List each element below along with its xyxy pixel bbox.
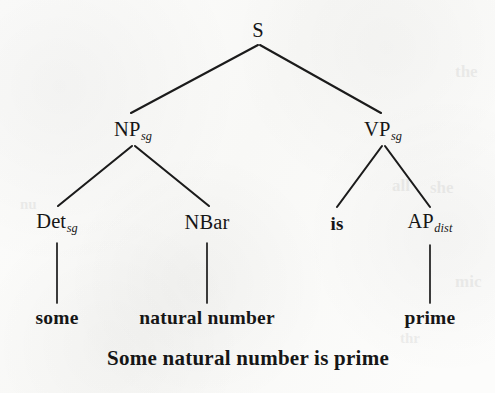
tree-edge-vp-ap xyxy=(385,146,430,207)
tree-edge-np-nbar xyxy=(135,146,209,206)
tree-node-nbar: NBar xyxy=(185,212,230,233)
tree-node-some: some xyxy=(35,308,78,328)
tree-edge-s-np xyxy=(131,45,258,113)
bleed-through-text: mic xyxy=(455,272,481,292)
tree-node-prime: prime xyxy=(405,308,456,328)
paper-texture xyxy=(0,0,495,393)
tree-node-label: Det xyxy=(36,210,66,232)
tree-node-label: VP xyxy=(364,118,390,140)
tree-node-ap: APdist xyxy=(407,211,452,234)
tree-node-subscript: sg xyxy=(141,128,152,142)
tree-node-label: some xyxy=(35,307,78,328)
tree-node-subscript: dist xyxy=(434,220,452,234)
tree-node-label: NP xyxy=(114,118,140,140)
tree-node-label: S xyxy=(252,19,264,41)
tree-edge-vp-is xyxy=(337,146,382,207)
tree-node-natnum: natural number xyxy=(139,308,275,328)
tree-node-label: NBar xyxy=(185,211,230,233)
tree-node-subscript: sg xyxy=(391,128,402,142)
tree-node-np: NPsg xyxy=(114,119,152,142)
figure-caption: Some natural number is prime xyxy=(107,346,389,371)
bleed-through-text: thr xyxy=(400,330,420,347)
bleed-through-text: the xyxy=(455,62,478,82)
figure-canvas: theallshemicthrnu SNPsgVPsgDetsgNBarisAP… xyxy=(0,0,495,393)
tree-node-s: S xyxy=(252,20,264,41)
tree-node-label: AP xyxy=(407,210,433,232)
tree-node-label: prime xyxy=(405,307,456,328)
tree-node-subscript: sg xyxy=(67,220,78,234)
tree-node-is: is xyxy=(331,214,344,233)
tree-edge-s-vp xyxy=(260,45,381,113)
tree-node-vp: VPsg xyxy=(364,119,402,142)
tree-edge-np-det xyxy=(58,146,132,206)
bleed-through-text: nu xyxy=(20,196,37,213)
tree-node-det: Detsg xyxy=(36,211,78,234)
tree-node-label: is xyxy=(331,213,344,234)
tree-edges xyxy=(0,0,495,393)
tree-node-label: natural number xyxy=(139,307,275,328)
bleed-through-text: she xyxy=(430,178,454,198)
bleed-through-text: all xyxy=(392,176,410,196)
